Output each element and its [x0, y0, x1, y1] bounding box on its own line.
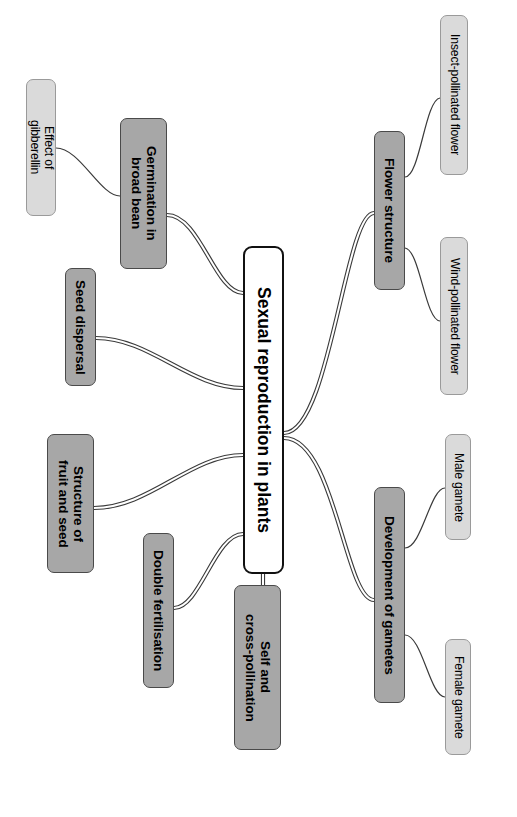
branch-node-development-of-gametes[interactable]: Development of gametes — [374, 487, 405, 703]
leaf-node-wind-pollinated-flower[interactable]: Wind-pollinated flower — [440, 237, 468, 395]
central-node[interactable]: Sexual reproduction in plants — [243, 246, 284, 574]
connector-edge — [56, 148, 120, 196]
mind-map-canvas: Sexual reproduction in plants Germinatio… — [0, 0, 517, 817]
connector-edge-inner — [96, 338, 243, 388]
branch-node-double-fertilisation[interactable]: Double fertilisation — [143, 533, 174, 688]
connector-edge-inner — [94, 455, 243, 508]
connector-edge — [405, 635, 445, 697]
connector-edge — [405, 248, 440, 321]
connector-edge — [405, 98, 440, 177]
leaf-node-insect-pollinated-flower[interactable]: Insect-pollinated flower — [440, 15, 468, 175]
branch-node-flower-structure[interactable]: Flower structure — [374, 131, 405, 290]
branch-node-germination-in-broad-bean[interactable]: Germination in broad bean — [120, 118, 167, 269]
connector-edge — [96, 338, 243, 388]
connector-edge — [167, 215, 243, 293]
connector-edge-inner — [284, 438, 374, 600]
branch-node-structure-of-fruit-and-seed[interactable]: Structure of fruit and seed — [47, 434, 94, 573]
connector-edge — [284, 213, 374, 433]
connector-edge-inner — [174, 534, 243, 608]
leaf-node-effect-of-gibberellin[interactable]: Effect of gibberellin — [26, 79, 56, 216]
connector-edge — [94, 455, 243, 508]
branch-node-seed-dispersal[interactable]: Seed dispersal — [65, 268, 96, 386]
connector-edge-inner — [284, 213, 374, 433]
connector-edge — [405, 488, 445, 548]
connector-edge-inner — [167, 215, 243, 293]
leaf-node-male-gamete[interactable]: Male gamete — [445, 434, 471, 540]
connector-edge — [284, 438, 374, 600]
connector-edge — [174, 534, 243, 608]
branch-node-self-and-cross-pollination[interactable]: Self and cross-pollination — [234, 585, 281, 750]
leaf-node-female-gamete[interactable]: Female gamete — [445, 639, 471, 755]
